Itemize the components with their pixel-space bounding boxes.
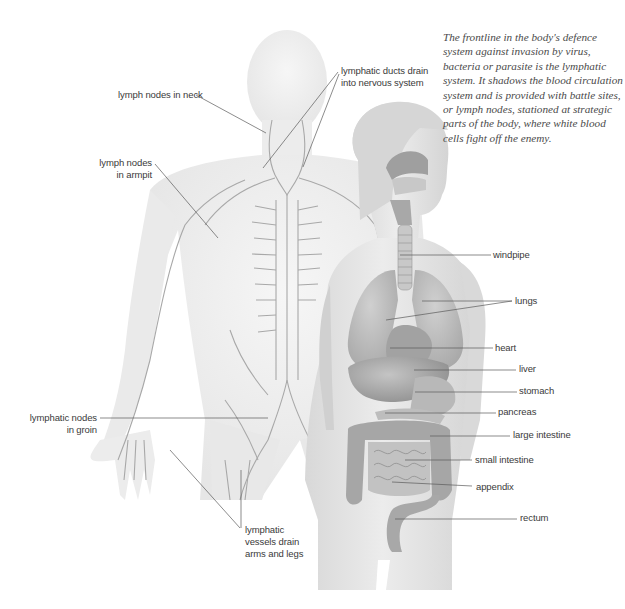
label-vessels-line2: vessels drain — [245, 536, 299, 548]
label-appendix: appendix — [476, 481, 514, 493]
label-vessels-line3: arms and legs — [245, 548, 303, 560]
label-stomach: stomach — [519, 385, 554, 397]
label-windpipe: windpipe — [493, 249, 530, 261]
label-armpit-line2: in armpit — [86, 169, 152, 181]
anatomy-diagram: The frontline in the body's defence syst… — [0, 0, 625, 609]
label-rectum: rectum — [520, 512, 548, 524]
label-pancreas: pancreas — [498, 406, 536, 418]
label-lymphatic-ducts-line1: lymphatic ducts drain — [341, 65, 428, 77]
label-lymphatic-ducts-line2: into nervous system — [341, 77, 424, 89]
label-groin-line2: in groin — [10, 424, 97, 436]
label-armpit-line1: lymph nodes — [86, 157, 152, 169]
label-large-intestine: large intestine — [513, 429, 571, 441]
label-heart: heart — [495, 342, 516, 354]
label-small-intestine: small intestine — [475, 454, 534, 466]
label-lungs: lungs — [515, 295, 537, 307]
label-vessels-line1: lymphatic — [245, 524, 284, 536]
label-lymph-nodes-neck: lymph nodes in neck — [118, 89, 203, 101]
intro-paragraph: The frontline in the body's defence syst… — [443, 30, 623, 145]
label-liver: liver — [519, 363, 536, 375]
label-groin-line1: lymphatic nodes — [10, 412, 97, 424]
